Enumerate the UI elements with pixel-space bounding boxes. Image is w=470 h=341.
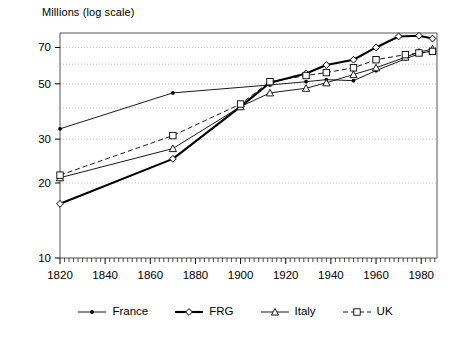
legend-label: UK bbox=[377, 306, 393, 318]
legend-square-icon bbox=[342, 306, 372, 318]
data-point-marker bbox=[303, 72, 309, 78]
data-point-marker bbox=[416, 50, 422, 56]
y-tick-label: 30 bbox=[38, 133, 51, 145]
data-point-marker bbox=[57, 200, 64, 207]
x-tick-label: 1980 bbox=[408, 269, 434, 281]
data-point-marker bbox=[350, 65, 356, 71]
y-tick-label: 10 bbox=[38, 252, 51, 264]
data-point-marker bbox=[429, 48, 435, 54]
data-point-marker bbox=[373, 57, 379, 63]
x-tick-label: 1920 bbox=[273, 269, 299, 281]
x-tick-label: 1960 bbox=[363, 269, 389, 281]
y-tick-label: 20 bbox=[38, 177, 51, 189]
x-tick-label: 1860 bbox=[138, 269, 164, 281]
data-point-marker bbox=[186, 309, 193, 316]
data-point-marker bbox=[395, 33, 402, 40]
data-point-marker bbox=[429, 35, 436, 42]
chart-container: Millions (log scale) 1020305070182018401… bbox=[0, 0, 470, 341]
x-tick-label: 1820 bbox=[47, 269, 73, 281]
legend-item-france[interactable]: France bbox=[77, 306, 148, 318]
data-point-marker bbox=[58, 127, 62, 131]
data-point-marker bbox=[323, 69, 329, 75]
line-chart-plot: 1020305070182018401860188019001920194019… bbox=[0, 0, 470, 300]
data-point-marker bbox=[267, 79, 273, 85]
x-tick-label: 1840 bbox=[92, 269, 118, 281]
legend-filled-circle-icon bbox=[77, 306, 107, 318]
legend-label: France bbox=[112, 306, 148, 318]
data-point-marker bbox=[170, 132, 176, 138]
data-point-marker bbox=[350, 71, 357, 78]
data-point-marker bbox=[323, 62, 330, 69]
data-point-marker bbox=[372, 64, 379, 71]
data-point-marker bbox=[402, 51, 408, 57]
legend-item-italy[interactable]: Italy bbox=[260, 306, 316, 318]
data-point-marker bbox=[352, 79, 356, 83]
legend-item-uk[interactable]: UK bbox=[342, 306, 393, 318]
data-point-marker bbox=[353, 309, 359, 315]
legend-triangle-icon bbox=[260, 306, 290, 318]
chart-legend: FranceFRGItalyUK bbox=[0, 298, 470, 326]
legend-diamond-icon bbox=[174, 306, 204, 318]
legend-item-frg[interactable]: FRG bbox=[174, 306, 233, 318]
data-point-marker bbox=[237, 101, 243, 107]
x-tick-label: 1940 bbox=[318, 269, 344, 281]
series-uk bbox=[57, 48, 436, 178]
y-tick-label: 50 bbox=[38, 78, 51, 90]
series-italy bbox=[56, 45, 436, 180]
x-tick-label: 1880 bbox=[183, 269, 209, 281]
data-point-marker bbox=[171, 91, 175, 95]
data-point-marker bbox=[304, 80, 308, 84]
y-tick-label: 70 bbox=[38, 41, 51, 53]
data-point-marker bbox=[169, 145, 176, 152]
legend-label: Italy bbox=[295, 306, 316, 318]
x-tick-label: 1900 bbox=[228, 269, 254, 281]
data-point-marker bbox=[57, 172, 63, 178]
data-point-marker bbox=[91, 310, 95, 314]
legend-label: FRG bbox=[209, 306, 233, 318]
